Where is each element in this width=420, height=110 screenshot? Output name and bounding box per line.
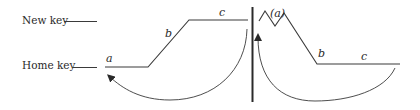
right-label-a: (a): [270, 7, 285, 20]
home-key-label: Home key: [22, 59, 76, 71]
right-return-arrow: [258, 37, 395, 101]
left-label-c: c: [219, 6, 225, 19]
left-label-b: b: [165, 27, 172, 40]
left-label-a: a: [106, 52, 113, 65]
modulation-diagram: New key Home key a b c (a) b c: [0, 0, 420, 110]
right-label-b: b: [318, 47, 325, 60]
new-key-label: New key: [22, 14, 68, 26]
left-modulation-path: [105, 20, 248, 67]
right-label-c: c: [361, 50, 367, 63]
left-return-arrow: [110, 29, 247, 100]
